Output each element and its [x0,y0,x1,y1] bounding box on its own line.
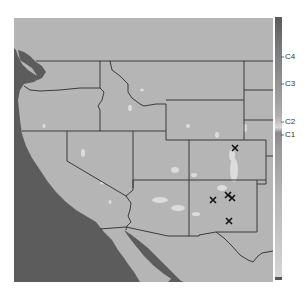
map-area [14,18,273,282]
map-figure [0,0,308,294]
colorbar-label-c4: C4 [285,53,295,61]
colorbar-label-c2: C2 [285,118,295,126]
colorbar [275,17,284,280]
colorbar-label-c1: C1 [285,131,295,139]
colorbar-label-c3: C3 [285,80,295,88]
